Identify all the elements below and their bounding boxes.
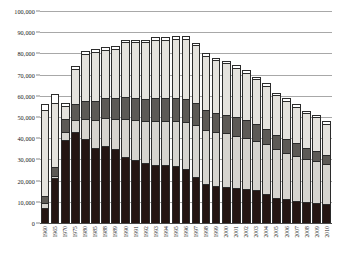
bar-segment [91,148,100,223]
x-tick-cell: 1960 [40,224,50,262]
bar-stack [121,40,130,223]
bar-segment [252,141,261,191]
y-tick-label: 20,000 [17,177,35,184]
x-tick-cell: 2001 [231,224,241,262]
bar-column[interactable] [41,11,50,223]
bar-segment [212,132,221,186]
bar-column[interactable] [272,11,281,223]
bar-column[interactable] [172,11,181,223]
bar-segment [312,203,321,223]
bar-column[interactable] [302,11,311,223]
bar-segment [81,119,90,140]
bar-segment [262,86,271,129]
bar-segment [41,110,50,197]
bar-segment [172,98,181,121]
y-axis: 100,00090,00080,00070,00060,00050,00040,… [0,11,40,223]
stacked-bar-chart: 100,00090,00080,00070,00060,00050,00040,… [0,0,340,264]
bar-segment [322,124,331,156]
bar-column[interactable] [292,11,301,223]
bar-segment [242,189,251,223]
bar-segment [202,130,211,184]
bar-segment [302,113,311,148]
y-tick-label: 30,000 [17,156,35,163]
bar-column[interactable] [262,11,271,223]
bar-stack [252,77,261,223]
x-tick-label: 1965 [52,226,58,238]
x-tick-label: 2009 [314,226,320,238]
bar-column[interactable] [282,11,291,223]
bar-segment [262,129,271,145]
bar-column[interactable] [121,11,130,223]
bar-column[interactable] [222,11,231,223]
bar-column[interactable] [151,11,160,223]
bar-segment [101,118,110,147]
bar-segment [202,110,211,131]
x-tick-cell: 2005 [271,224,281,262]
bar-stack [71,66,80,223]
bar-segment [172,39,181,98]
bar-stack [242,70,251,223]
x-tick-label: 2007 [294,226,300,238]
bar-segment [161,121,170,166]
bar-stack [282,98,291,223]
x-tick-cell: 1999 [211,224,221,262]
bar-stack [312,115,321,223]
bar-column[interactable] [312,11,321,223]
bar-column[interactable] [101,11,110,223]
bar-segment [71,132,80,223]
bar-segment [131,160,140,223]
bar-segment [282,199,291,223]
bar-column[interactable] [141,11,150,223]
bar-column[interactable] [252,11,261,223]
bar-column[interactable] [111,11,120,223]
y-tick-label: 90,000 [17,29,35,36]
bar-column[interactable] [182,11,191,223]
x-tick-cell: 1988 [100,224,110,262]
bar-column[interactable] [192,11,201,223]
bar-column[interactable] [81,11,90,223]
bar-segment [272,95,281,135]
bar-segment [272,135,281,150]
bar-column[interactable] [91,11,100,223]
bar-column[interactable] [131,11,140,223]
bar-column[interactable] [71,11,80,223]
bar-segment [212,186,221,223]
bar-stack [161,37,170,223]
x-tick-cell: 1965 [50,224,60,262]
bar-segment [41,208,50,223]
bar-segment [222,133,231,187]
bar-segment [292,201,301,223]
x-tick-cell: 2009 [312,224,322,262]
bar-column[interactable] [61,11,70,223]
bar-column[interactable] [161,11,170,223]
bar-segment [282,139,291,153]
bar-segment [212,60,221,113]
x-tick-cell: 1993 [151,224,161,262]
x-tick-cell: 1992 [141,224,151,262]
bar-segment [202,56,211,110]
x-tick-cell: 1990 [121,224,131,262]
bar-column[interactable] [322,11,331,223]
bar-segment [91,120,100,149]
bar-segment [81,101,90,119]
bar-segment [151,121,160,166]
bar-segment [192,125,201,178]
bar-segment [111,119,120,150]
bar-segment [182,39,191,99]
bar-column[interactable] [51,11,60,223]
x-tick-cell: 1989 [110,224,120,262]
bar-segment [101,98,110,118]
bar-column[interactable] [212,11,221,223]
x-tick-label: 1988 [102,226,108,238]
y-tick-label: 40,000 [17,135,35,142]
x-tick-label: 2010 [324,226,330,238]
bar-column[interactable] [242,11,251,223]
y-tick-label: 100,000 [14,8,35,15]
bar-column[interactable] [232,11,241,223]
bar-stack [222,61,231,223]
bar-column[interactable] [202,11,211,223]
x-tick-cell: 2003 [251,224,261,262]
x-tick-cell: 1995 [171,224,181,262]
bar-segment [292,107,301,144]
bar-segment [232,188,241,223]
